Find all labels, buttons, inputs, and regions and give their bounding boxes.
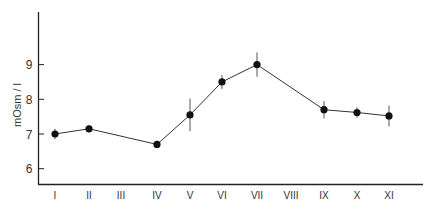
- y-tick-label: 9: [26, 58, 33, 72]
- x-tick-label: IX: [319, 190, 329, 201]
- x-tick-labels: IIIIIIIVVVIVIIVIIIIXXXI: [54, 190, 394, 201]
- data-point: [85, 125, 92, 132]
- y-ticks: 6789: [26, 58, 44, 176]
- data-point: [153, 141, 160, 148]
- data-point: [218, 78, 225, 85]
- y-axis-title: mOsm / l: [11, 83, 23, 127]
- y-tick-label: 8: [26, 93, 33, 107]
- x-tick-label: VII: [251, 190, 263, 201]
- data-point: [51, 130, 58, 137]
- x-tick-label: IV: [152, 190, 162, 201]
- y-tick-label: 7: [26, 128, 33, 142]
- axes: [38, 12, 423, 185]
- data-point: [353, 109, 360, 116]
- x-tick-label: X: [354, 190, 361, 201]
- y-tick-label: 6: [26, 162, 33, 176]
- x-tick-label: I: [54, 190, 57, 201]
- x-tick-label: III: [117, 190, 125, 201]
- data-point: [320, 106, 327, 113]
- x-tick-label: XI: [384, 190, 393, 201]
- x-tick-label: VI: [217, 190, 226, 201]
- x-tick-label: II: [86, 190, 92, 201]
- data-point: [385, 112, 392, 119]
- line-chart: 6789 IIIIIIIVVVIVIIVIIIIXXXI mOsm / l: [0, 0, 437, 211]
- data-series: [51, 52, 392, 148]
- x-tick-label: V: [187, 190, 194, 201]
- data-point: [186, 111, 193, 118]
- x-tick-label: VIII: [283, 190, 298, 201]
- data-point: [253, 61, 260, 68]
